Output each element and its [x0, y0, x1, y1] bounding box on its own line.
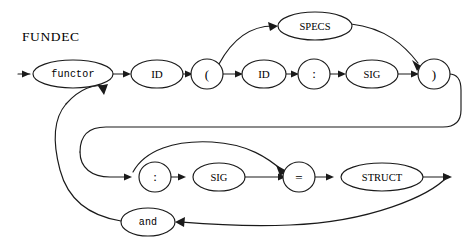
node-id-1[interactable]: ID	[131, 60, 183, 88]
node-id-2[interactable]: ID	[242, 60, 286, 88]
node-id-2-label: ID	[258, 68, 270, 80]
node-colon-2[interactable]: :	[139, 162, 171, 192]
arrowhead-to-end	[443, 173, 452, 181]
arrowhead-to-specs	[268, 22, 278, 31]
arrowhead-to-colon2	[124, 174, 132, 181]
arrowhead-to-struct	[326, 174, 334, 181]
edge-layer	[18, 24, 461, 226]
arrowhead-to-sig2	[178, 174, 186, 181]
node-sig-2-label: SIG	[211, 172, 228, 183]
edge-specs-to-rparen	[351, 24, 418, 63]
arrowhead-to-id1	[123, 71, 131, 78]
node-specs[interactable]: SPECS	[278, 12, 352, 40]
arrowhead-layer	[22, 22, 452, 227]
node-sig-1[interactable]: SIG	[346, 60, 398, 88]
arrowhead-start-to-functor	[22, 71, 30, 78]
node-equals-label: =	[295, 170, 302, 185]
node-lparen-label: (	[205, 67, 209, 82]
node-id-1-label: ID	[151, 68, 163, 80]
node-colon-1[interactable]: :	[298, 59, 330, 89]
node-lparen[interactable]: (	[191, 59, 223, 89]
edge-lparen-to-specs	[219, 26, 273, 64]
node-rparen[interactable]: )	[418, 59, 450, 89]
node-struct[interactable]: STRUCT	[341, 163, 423, 191]
edge-and-to-functor-left-loop	[55, 104, 121, 221]
node-functor[interactable]: functor	[33, 60, 113, 88]
arrowhead-to-and	[175, 217, 185, 227]
arrowhead-to-sig1	[338, 71, 346, 78]
node-equals[interactable]: =	[283, 162, 315, 192]
node-struct-label: STRUCT	[362, 172, 403, 183]
railroad-diagram-canvas: FUNDEC	[0, 0, 469, 244]
node-colon-1-label: :	[312, 66, 316, 81]
node-functor-label: functor	[51, 69, 94, 80]
node-sig-2[interactable]: SIG	[193, 163, 245, 191]
edge-return-rail-to-colon2	[80, 152, 127, 177]
node-colon-2-label: :	[153, 169, 157, 184]
node-and[interactable]: and	[121, 208, 175, 236]
page-title: FUNDEC	[22, 29, 80, 44]
node-sig-1-label: SIG	[364, 69, 381, 80]
node-rparen-label: )	[432, 67, 436, 82]
node-and-label: and	[139, 217, 158, 228]
node-specs-label: SPECS	[300, 21, 331, 32]
railroad-diagram: FUNDEC	[0, 0, 469, 244]
